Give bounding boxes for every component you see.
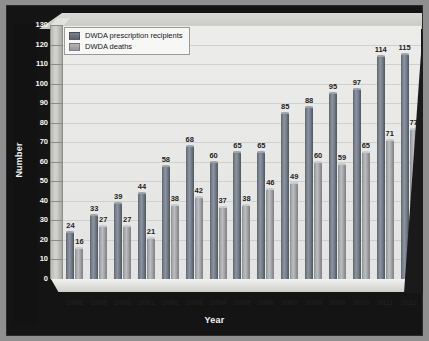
bar-cap xyxy=(305,106,313,108)
bar-group: 8860 xyxy=(302,107,326,279)
y-axis-tick-label: 80 xyxy=(24,119,48,127)
y-axis-tick-label: 110 xyxy=(24,60,48,68)
bar[interactable]: 33 xyxy=(90,215,98,279)
bar-cap xyxy=(338,163,346,165)
bar[interactable]: 58 xyxy=(162,166,170,279)
y-axis-tick-label: 20 xyxy=(24,236,48,244)
bar[interactable]: 44 xyxy=(138,193,146,279)
bar[interactable]: 16 xyxy=(75,248,83,279)
bar-value-label: 38 xyxy=(171,194,179,203)
bar[interactable]: 27 xyxy=(123,226,131,279)
bar[interactable]: 65 xyxy=(257,152,265,279)
x-axis-title: Year xyxy=(6,315,423,325)
bar-cap xyxy=(75,247,83,249)
y-axis-tick-label: 10 xyxy=(24,255,48,263)
bar-cap xyxy=(386,139,394,141)
bar-value-label: 85 xyxy=(281,102,289,111)
bar[interactable]: 38 xyxy=(242,205,250,279)
bar[interactable]: 27 xyxy=(99,226,107,279)
bar-cap xyxy=(353,88,361,90)
bar-value-label: 65 xyxy=(257,141,265,150)
y-axis-tick-mark xyxy=(51,220,62,221)
bar[interactable]: 49 xyxy=(290,183,298,279)
x-axis-tick-label: 2000 xyxy=(114,298,131,307)
bar[interactable]: 114 xyxy=(377,56,385,279)
bar[interactable]: 88 xyxy=(305,107,313,279)
bar-cap xyxy=(377,55,385,57)
bar-cap xyxy=(219,206,227,208)
bar-cap xyxy=(66,231,74,233)
gridline xyxy=(63,25,421,26)
bar-group: 4421 xyxy=(135,193,159,279)
legend-swatch-icon-deaths xyxy=(69,43,80,51)
y-axis-tick-mark xyxy=(51,64,62,65)
bar-group: 6546 xyxy=(254,152,278,279)
bar-value-label: 65 xyxy=(233,141,241,150)
bar[interactable]: 39 xyxy=(114,203,122,279)
bar[interactable]: 65 xyxy=(233,152,241,279)
bar[interactable]: 97 xyxy=(353,89,361,279)
x-axis-tick-label: 2003 xyxy=(186,298,203,307)
x-axis-tick-label: 2012 xyxy=(401,298,418,307)
bar[interactable]: 46 xyxy=(266,189,274,279)
bar-cap xyxy=(329,92,337,94)
bar-group: 8549 xyxy=(278,113,302,279)
bar[interactable]: 60 xyxy=(314,162,322,279)
y-axis-tick-mark xyxy=(51,142,62,143)
bar-cap xyxy=(99,225,107,227)
bar[interactable]: 24 xyxy=(66,232,74,279)
x-axis-tick-label: 2008 xyxy=(305,298,322,307)
bar-value-label: 60 xyxy=(314,151,322,160)
bar[interactable]: 60 xyxy=(210,162,218,279)
bar[interactable]: 95 xyxy=(329,93,337,279)
bar-value-label: 115 xyxy=(398,43,410,52)
bar-cap xyxy=(162,165,170,167)
bar-value-label: 60 xyxy=(209,151,217,160)
bar[interactable]: 115 xyxy=(401,54,409,279)
y-axis-tick-label: 0 xyxy=(24,275,48,283)
bar-cap xyxy=(210,161,218,163)
bar-group: 11471 xyxy=(373,56,397,279)
y-axis-tick-mark xyxy=(51,162,62,163)
x-axis-tick-label: 2011 xyxy=(377,298,393,307)
bar-group: 3327 xyxy=(87,215,111,279)
x-axis-tick-label: 2002 xyxy=(162,298,179,307)
x-axis-tick-label: 2010 xyxy=(353,298,370,307)
bar-cap xyxy=(123,225,131,227)
bar-cap xyxy=(186,145,194,147)
bar[interactable]: 38 xyxy=(171,205,179,279)
y-axis-tick-label: 130 xyxy=(24,21,48,29)
bar[interactable]: 21 xyxy=(147,238,155,279)
bar-cap xyxy=(147,237,155,239)
bar[interactable]: 71 xyxy=(386,140,394,279)
gridline xyxy=(63,64,421,65)
y-axis-tick-mark xyxy=(51,259,62,260)
bar-value-label: 71 xyxy=(386,129,394,138)
bar-group: 2416 xyxy=(63,232,87,279)
bar[interactable]: 42 xyxy=(195,197,203,279)
y-axis-tick-mark xyxy=(51,103,62,104)
bar-value-label: 16 xyxy=(75,237,83,246)
bar-cap xyxy=(171,204,179,206)
bar[interactable]: 68 xyxy=(186,146,194,279)
y-axis-tick-mark xyxy=(51,181,62,182)
bar-group: 9765 xyxy=(349,89,373,279)
bar-value-label: 46 xyxy=(266,178,274,187)
bar-group: 9559 xyxy=(326,93,350,279)
x-axis-tick-labels: 1998199920002001200220032004200520062007… xyxy=(63,293,421,307)
bar[interactable]: 59 xyxy=(338,164,346,279)
legend-item-deaths: DWDA deaths xyxy=(69,42,183,51)
bar[interactable]: 65 xyxy=(362,152,370,279)
bar-value-label: 68 xyxy=(186,135,194,144)
bar[interactable]: 85 xyxy=(281,113,289,279)
bar[interactable]: 37 xyxy=(219,207,227,279)
gridline xyxy=(63,84,421,85)
legend-swatch-icon-prescriptions xyxy=(69,32,80,40)
bar-group: 3927 xyxy=(111,203,135,279)
bar-cap xyxy=(90,214,98,216)
x-axis-tick-label: 2006 xyxy=(258,298,275,307)
y-axis-tick-mark xyxy=(51,84,62,85)
y-axis-tick-mark xyxy=(51,201,62,202)
bar-value-label: 65 xyxy=(362,141,370,150)
bar-value-label: 21 xyxy=(147,227,155,236)
